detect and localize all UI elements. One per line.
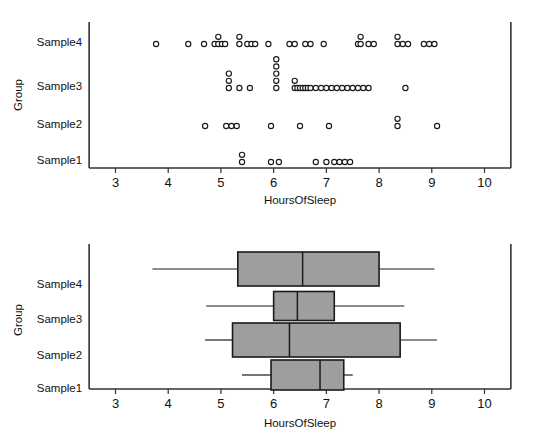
dot-plot-point (366, 41, 371, 46)
dot-plot-point (237, 34, 242, 39)
dot-plot-point (405, 41, 410, 46)
dot-plot-y-axis-title: Group (12, 79, 24, 111)
dot-plot-point (186, 41, 191, 46)
box-plot-box-sample2 (205, 323, 437, 357)
dot-plot-points (153, 34, 439, 164)
dot-plot-point (308, 85, 313, 90)
box-plot-tick-label-7: 7 (323, 396, 330, 411)
dot-plot-tick-label-6: 6 (270, 175, 277, 190)
dot-plot-point (153, 41, 158, 46)
box-plot-category-label-sample3: Sample3 (37, 313, 82, 325)
dot-plot-point (329, 85, 334, 90)
box-plot-tick-label-10: 10 (477, 396, 491, 411)
dot-plot-point (395, 116, 400, 121)
box-iqr (233, 323, 401, 357)
dot-plot-point (324, 159, 329, 164)
dot-plot-point (318, 85, 323, 90)
dot-plot-category-label-sample4: Sample4 (37, 36, 83, 48)
dot-plot-point (432, 41, 437, 46)
dot-plot-point (427, 41, 432, 46)
dot-plot-point (350, 85, 355, 90)
dot-plot-point (229, 123, 234, 128)
dot-plot-point (247, 85, 252, 90)
dot-plot-point (274, 57, 279, 62)
dot-plot-point (201, 41, 206, 46)
box-plot-box-sample1 (242, 360, 353, 390)
dot-plot-point (268, 123, 273, 128)
box-plot-category-label-sample1: Sample1 (37, 382, 82, 394)
box-iqr (274, 292, 335, 321)
box-plot-tick-label-8: 8 (375, 396, 382, 411)
dot-plot-point (292, 41, 297, 46)
dot-plot-tick-label-7: 7 (323, 175, 330, 190)
box-plot-svg: Group Sample1Sample2Sample3Sample4 34567… (0, 220, 548, 443)
dot-plot-tick-label-8: 8 (375, 175, 382, 190)
dot-plot-point (274, 71, 279, 76)
box-plot-box-sample4 (152, 252, 434, 286)
box-plot-category-labels: Sample1Sample2Sample3Sample4 (37, 278, 83, 394)
dot-plot-point (276, 159, 281, 164)
box-plot-category-label-sample4: Sample4 (37, 278, 83, 290)
dot-plot-point (358, 34, 363, 39)
dot-plot-point (326, 123, 331, 128)
dot-plot-point (226, 78, 231, 83)
dot-plot-point (313, 159, 318, 164)
dot-plot-point (355, 85, 360, 90)
dot-plot-point (216, 34, 221, 39)
dot-plot-point (237, 41, 242, 46)
dot-plot-point (253, 41, 258, 46)
dot-plot-point (421, 41, 426, 46)
figure-container: Group Sample1Sample2Sample3Sample4 34567… (0, 0, 548, 443)
dot-plot-point (434, 123, 439, 128)
dot-plot-point (226, 71, 231, 76)
dot-plot-point (308, 41, 313, 46)
dot-plot-point (237, 85, 242, 90)
dot-plot-point (340, 85, 345, 90)
dot-plot-point (324, 85, 329, 90)
dot-plot-point (224, 123, 229, 128)
dot-plot-xlabel: HoursOfSleep (264, 194, 336, 206)
dot-plot-point (268, 159, 273, 164)
box-plot-category-label-sample2: Sample2 (37, 349, 82, 361)
dot-plot-tick-label-3: 3 (112, 175, 119, 190)
dot-plot-tick-label-9: 9 (428, 175, 435, 190)
dot-plot-tick-label-4: 4 (165, 175, 172, 190)
box-plot-y-axis-title: Group (12, 304, 24, 336)
dot-plot-point (274, 64, 279, 69)
dot-plot-category-label-sample2: Sample2 (37, 118, 82, 130)
dot-plot-point (287, 41, 292, 46)
dot-plot-point (334, 85, 339, 90)
dot-plot-point (292, 78, 297, 83)
dot-plot-point (321, 41, 326, 46)
dot-plot-point (303, 41, 308, 46)
dot-plot-category-label-sample3: Sample3 (37, 80, 82, 92)
box-plot-tick-label-9: 9 (428, 396, 435, 411)
box-plot-tick-label-3: 3 (112, 396, 119, 411)
dot-plot-point (239, 152, 244, 157)
dot-plot-point (274, 85, 279, 90)
dot-plot-point (203, 123, 208, 128)
box-plot-tick-label-6: 6 (270, 396, 277, 411)
dot-plot-point (313, 85, 318, 90)
dot-plot-point (266, 41, 271, 46)
box-plot-xlabel: HoursOfSleep (264, 417, 336, 429)
dot-plot-axes (89, 22, 511, 168)
dot-plot-x-tick-labels: 345678910 (112, 175, 492, 190)
box-plot-tick-label-4: 4 (165, 396, 172, 411)
box-plot-panel: Group Sample1Sample2Sample3Sample4 34567… (0, 220, 548, 443)
box-plot-tick-label-5: 5 (217, 396, 224, 411)
box-plot-ylabel: Group (12, 304, 24, 336)
dot-plot-point (234, 123, 239, 128)
dot-plot-point (332, 159, 337, 164)
dot-plot-point (403, 85, 408, 90)
dot-plot-point (223, 41, 228, 46)
dot-plot-category-labels: Sample1Sample2Sample3Sample4 (37, 36, 83, 166)
dot-plot-point (239, 159, 244, 164)
dot-plot-tick-label-5: 5 (217, 175, 224, 190)
dot-plot-point (342, 159, 347, 164)
dot-plot-point (361, 85, 366, 90)
dot-plot-point (274, 78, 279, 83)
dot-plot-category-label-sample1: Sample1 (37, 154, 82, 166)
box-plot-x-tick-labels: 345678910 (112, 396, 492, 411)
dot-plot-panel: Group Sample1Sample2Sample3Sample4 34567… (0, 0, 548, 220)
